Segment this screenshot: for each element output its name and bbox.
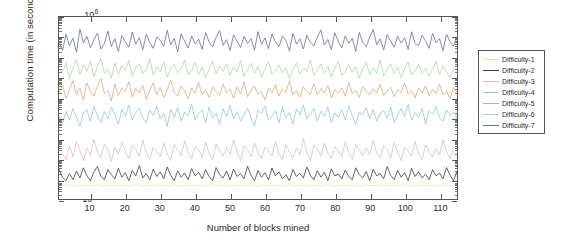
y-tick-mark-minor (455, 80, 458, 81)
y-tick-mark-minor (59, 107, 62, 108)
series-line (59, 185, 457, 186)
x-tick-mark (91, 194, 92, 199)
legend: Difficulty-1Difficulty-2Difficulty-3Diff… (478, 50, 545, 134)
y-tick-mark-minor (59, 41, 62, 42)
legend-item[interactable]: Difficulty-6 (481, 109, 542, 120)
y-tick-mark-minor (59, 146, 62, 147)
y-tick-mark (452, 78, 457, 79)
y-tick-mark-minor (455, 79, 458, 80)
y-tick-mark-minor (455, 19, 458, 20)
x-tick-label: 40 (175, 203, 215, 213)
y-tick-mark (59, 99, 64, 100)
y-tick-mark-minor (455, 183, 458, 184)
legend-item[interactable]: Difficulty-1 (481, 54, 542, 65)
y-tick-mark-minor (455, 46, 458, 47)
y-tick-mark-minor (59, 181, 62, 182)
y-tick-mark (452, 17, 457, 18)
y-tick-mark-minor (59, 166, 62, 167)
y-tick-mark-minor (59, 20, 62, 21)
x-tick-mark (441, 17, 442, 22)
y-tick-mark-minor (455, 83, 458, 84)
x-tick-label: 30 (140, 203, 180, 213)
legend-item[interactable]: Difficulty-5 (481, 98, 542, 109)
legend-item[interactable]: Difficulty-3 (481, 76, 542, 87)
y-tick-mark-minor (455, 161, 458, 162)
y-tick-mark-minor (59, 19, 62, 20)
y-tick-mark (59, 78, 64, 79)
x-tick-mark (231, 194, 232, 199)
y-tick-mark-minor (59, 48, 62, 49)
legend-item[interactable]: Difficulty-7 (481, 120, 542, 131)
y-tick-mark-minor (455, 41, 458, 42)
y-tick-mark-minor (59, 124, 62, 125)
y-tick-mark-minor (455, 48, 458, 49)
legend-item[interactable]: Difficulty-4 (481, 87, 542, 98)
y-tick-mark-minor (455, 143, 458, 144)
legend-color-swatch (483, 92, 499, 93)
y-tick-mark-minor (455, 154, 458, 155)
x-axis-label: Number of blocks mined (58, 222, 458, 233)
y-tick-mark (59, 37, 64, 38)
x-tick-mark (91, 17, 92, 22)
x-tick-label: 80 (315, 203, 355, 213)
y-tick-mark (452, 201, 457, 202)
y-tick-mark-minor (59, 165, 62, 166)
series-canvas (59, 17, 457, 199)
legend-color-swatch (483, 114, 499, 115)
legend-label: Difficulty-4 (502, 89, 535, 96)
y-tick-mark-minor (455, 122, 458, 123)
y-tick-mark-minor (455, 72, 458, 73)
x-tick-mark (126, 17, 127, 22)
y-tick-mark-minor (455, 44, 458, 45)
x-tick-label: 60 (245, 203, 285, 213)
y-tick-mark-minor (455, 59, 458, 60)
y-tick-mark-minor (455, 22, 458, 23)
y-tick-mark-minor (455, 100, 458, 101)
y-tick-mark-minor (455, 84, 458, 85)
y-tick-mark-minor (455, 163, 458, 164)
y-tick-mark-minor (59, 101, 62, 102)
x-tick-mark (231, 17, 232, 22)
x-tick-mark (161, 17, 162, 22)
y-tick-mark-minor (455, 195, 458, 196)
x-tick-mark (336, 17, 337, 22)
y-tick-mark-minor (455, 101, 458, 102)
y-tick-mark-minor (59, 82, 62, 83)
y-tick-mark-minor (455, 141, 458, 142)
y-tick-mark-minor (455, 61, 458, 62)
legend-color-swatch (483, 81, 499, 82)
y-tick-mark-minor (59, 22, 62, 23)
y-tick-mark (452, 160, 457, 161)
y-tick-mark-minor (59, 86, 62, 87)
y-tick-mark-minor (455, 148, 458, 149)
y-tick-mark-minor (455, 20, 458, 21)
y-tick-mark-minor (455, 52, 458, 53)
y-tick-mark-minor (455, 184, 458, 185)
y-tick-mark-minor (455, 124, 458, 125)
y-tick-mark-minor (455, 64, 458, 65)
y-tick-mark-minor (455, 113, 458, 114)
y-tick-mark-minor (455, 102, 458, 103)
y-tick-mark-minor (455, 146, 458, 147)
x-tick-label: 100 (385, 203, 425, 213)
series-line (59, 59, 457, 79)
y-tick-mark-minor (59, 168, 62, 169)
y-tick-mark-minor (59, 100, 62, 101)
x-tick-mark (406, 194, 407, 199)
x-tick-mark (196, 17, 197, 22)
y-tick-mark-minor (455, 107, 458, 108)
y-tick-mark-minor (59, 102, 62, 103)
y-tick-mark-minor (455, 150, 458, 151)
legend-item[interactable]: Difficulty-2 (481, 65, 542, 76)
y-tick-mark-minor (59, 125, 62, 126)
y-tick-mark-minor (59, 184, 62, 185)
x-tick-label: 50 (210, 203, 250, 213)
x-tick-mark (301, 194, 302, 199)
y-tick-mark-minor (59, 105, 62, 106)
y-tick-mark-minor (59, 28, 62, 29)
y-tick-mark-minor (455, 89, 458, 90)
legend-label: Difficulty-1 (502, 56, 535, 63)
y-tick-mark (59, 119, 64, 120)
y-tick-mark-minor (455, 120, 458, 121)
y-tick-mark-minor (59, 171, 62, 172)
